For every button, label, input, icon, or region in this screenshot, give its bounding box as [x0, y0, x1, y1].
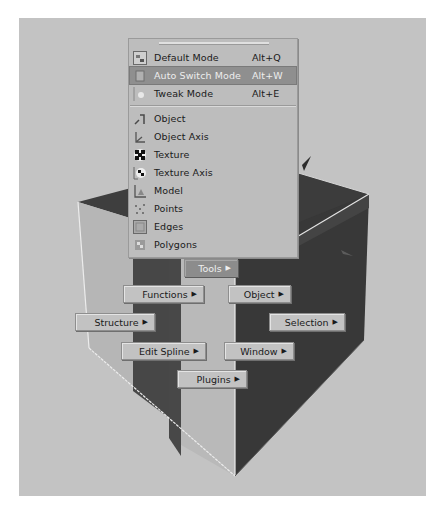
menu-item-polygons[interactable]: Polygons: [130, 236, 296, 253]
submenu-arrow-icon: ▶: [282, 347, 287, 355]
hud-object-button[interactable]: Object▶: [228, 285, 291, 303]
hud-functions-button[interactable]: Functions▶: [123, 285, 204, 303]
submenu-arrow-icon: ▶: [194, 347, 199, 355]
menu-item-edges[interactable]: Edges: [130, 218, 296, 235]
texture-axis-icon: [133, 166, 147, 180]
menu-item-object[interactable]: Object: [130, 110, 296, 127]
default-mode-icon: [133, 51, 147, 65]
hud-edit-spline-button[interactable]: Edit Spline▶: [121, 342, 206, 360]
3d-viewport[interactable]: Default Mode Alt+Q Auto Switch Mode Alt+…: [19, 18, 426, 496]
auto-switch-mode-icon: [133, 69, 147, 83]
submenu-arrow-icon: ▶: [279, 290, 284, 298]
texture-icon: [133, 148, 147, 162]
menu-item-object-axis[interactable]: Object Axis: [130, 128, 296, 145]
points-icon: [133, 202, 147, 216]
menu-separator: [130, 105, 296, 107]
polygons-icon: [133, 238, 147, 252]
menu-item-default-mode[interactable]: Default Mode Alt+Q: [130, 49, 296, 66]
hud-structure-button[interactable]: Structure▶: [75, 313, 155, 331]
edges-icon: [133, 220, 147, 234]
menu-item-auto-switch-mode[interactable]: Auto Switch Mode Alt+W: [130, 67, 296, 84]
object-tool-icon: [133, 112, 147, 126]
menu-item-model[interactable]: Model: [130, 182, 296, 199]
submenu-arrow-icon: ▶: [235, 375, 240, 383]
menu-item-points[interactable]: Points: [130, 200, 296, 217]
hud-selection-button[interactable]: Selection▶: [269, 313, 345, 331]
menu-item-tweak-mode[interactable]: Tweak Mode Alt+E: [130, 85, 296, 102]
submenu-arrow-icon: ▶: [333, 318, 338, 326]
mode-tool-menu: Default Mode Alt+Q Auto Switch Mode Alt+…: [128, 38, 298, 258]
submenu-arrow-icon: ▶: [192, 290, 197, 298]
hud-window-button[interactable]: Window▶: [224, 342, 294, 360]
hud-plugins-button[interactable]: Plugins▶: [177, 370, 247, 388]
axis-handle-icon: [302, 156, 311, 171]
model-icon: [133, 184, 147, 198]
object-axis-icon: [133, 130, 147, 144]
hud-tools-button[interactable]: Tools▶: [184, 259, 238, 277]
submenu-arrow-icon: ▶: [226, 264, 231, 272]
menu-item-texture-axis[interactable]: Texture Axis: [130, 164, 296, 181]
submenu-arrow-icon: ▶: [143, 318, 148, 326]
menu-item-texture[interactable]: Texture: [130, 146, 296, 163]
menu-tear-off-handle[interactable]: [159, 42, 269, 45]
tweak-mode-icon: [133, 87, 147, 101]
